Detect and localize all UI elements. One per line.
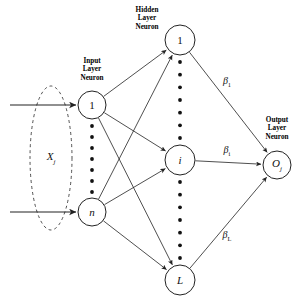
edge-input-node-n-to-hidden-node-i: [104, 169, 165, 205]
input-layer-label: Input Layer Neuron: [80, 57, 103, 82]
hidden-ellipsis-upper-dot: [178, 111, 182, 115]
hidden-node-hidden-node-i[interactable]: [165, 145, 195, 175]
hidden-ellipsis-upper-dot: [178, 85, 182, 89]
edge-input-node-n-to-hidden-node-1: [99, 55, 173, 199]
input-node-input-node-n[interactable]: [78, 198, 106, 226]
hidden-ellipsis-upper-dot: [178, 98, 182, 102]
input-ellipsis-dot: [90, 146, 94, 150]
input-ellipsis-dot: [90, 124, 94, 128]
hidden-ellipsis-lower-dot: [178, 243, 182, 247]
hidden-ellipsis-lower-dot: [178, 218, 182, 222]
hidden-ellipsis-upper-dot: [178, 136, 182, 140]
edge-hidden-node-1-to-output-node-Oj: [190, 52, 268, 152]
hidden-ellipsis-lower-dot: [178, 256, 182, 260]
hidden-layer-label: Hidden Layer Neuron: [135, 6, 158, 31]
input-node-input-node-1[interactable]: [78, 91, 106, 119]
network-canvas: [0, 0, 304, 308]
edge-input-node-1-to-hidden-node-1: [104, 50, 167, 96]
edge-input-node-1-to-hidden-node-i: [104, 113, 165, 151]
input-ellipsis-dot: [90, 190, 94, 194]
beta-i-label: βi: [224, 144, 231, 157]
input-ellipsis-dot: [90, 135, 94, 139]
hidden-ellipsis-lower-dot: [178, 205, 182, 209]
input-vector-Xj-label: Xj: [47, 150, 56, 165]
hidden-ellipsis-lower-dot: [178, 180, 182, 184]
output-layer-label: Output Layer Neuron: [265, 116, 288, 141]
edge-hidden-node-i-to-output-node-Oj: [195, 161, 261, 164]
edge-input-node-1-to-hidden-node-L: [99, 118, 173, 265]
input-ellipsis-dot: [90, 179, 94, 183]
beta-1-label: β1: [223, 75, 231, 88]
hidden-node-hidden-node-L[interactable]: [165, 265, 195, 295]
edge-input-node-n-to-hidden-node-L: [103, 221, 166, 270]
hidden-node-hidden-node-1[interactable]: [165, 25, 195, 55]
input-ellipsis-dot: [90, 157, 94, 161]
hidden-ellipsis-upper-dot: [178, 123, 182, 127]
hidden-ellipsis-upper-dot: [178, 73, 182, 77]
input-ellipsis-dot: [90, 168, 94, 172]
hidden-ellipsis-lower-dot: [178, 231, 182, 235]
elm-network-diagram: 1n1iLOjInput Layer NeuronHidden Layer Ne…: [0, 0, 304, 308]
beta-L-label: βL: [223, 229, 232, 242]
output-node-output-node-Oj[interactable]: [263, 151, 291, 179]
node-group: [78, 25, 291, 295]
hidden-ellipsis-upper-dot: [178, 60, 182, 64]
edge-hidden-node-L-to-output-node-Oj: [190, 177, 267, 268]
hidden-ellipsis-lower-dot: [178, 193, 182, 197]
